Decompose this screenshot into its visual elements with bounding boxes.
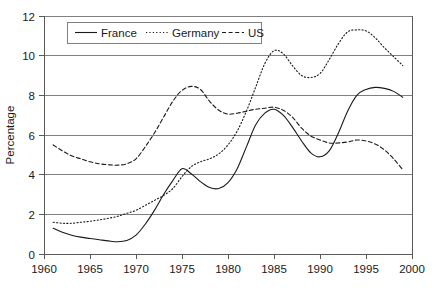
x-tick-label: 1985 [261, 263, 287, 275]
x-tick-label: 2000 [399, 263, 425, 275]
x-tick-label: 1965 [77, 263, 103, 275]
x-tick-label: 1995 [353, 263, 379, 275]
legend-label-germany: Germany [172, 27, 220, 39]
x-tick-label: 1970 [123, 263, 149, 275]
y-tick-label: 4 [29, 169, 36, 181]
y-axis-title: Percentage [4, 106, 16, 165]
x-tick-marks [44, 254, 412, 259]
y-tick-marks [39, 16, 44, 254]
y-tick-label: 0 [29, 249, 35, 261]
y-tick-label: 12 [22, 11, 35, 23]
y-tick-label: 10 [22, 50, 35, 62]
y-tick-labels: 12 10 8 6 4 2 0 [22, 11, 35, 261]
y-tick-label: 8 [29, 90, 35, 102]
x-tick-label: 1975 [169, 263, 195, 275]
x-tick-labels: 1960 1965 1970 1975 1980 1985 1990 1995 … [31, 263, 425, 275]
legend-label-us: US [248, 27, 264, 39]
x-tick-label: 1980 [215, 263, 241, 275]
y-tick-label: 2 [29, 209, 35, 221]
x-tick-label: 1990 [307, 263, 333, 275]
x-tick-label: 1960 [31, 263, 57, 275]
chart-canvas: 12 10 8 6 4 2 0 1960 1965 1970 1975 1980… [0, 0, 436, 292]
legend-label-france: France [101, 27, 137, 39]
legend: France Germany US [67, 22, 264, 43]
line-chart: 12 10 8 6 4 2 0 1960 1965 1970 1975 1980… [0, 0, 436, 292]
y-tick-label: 6 [29, 130, 35, 142]
